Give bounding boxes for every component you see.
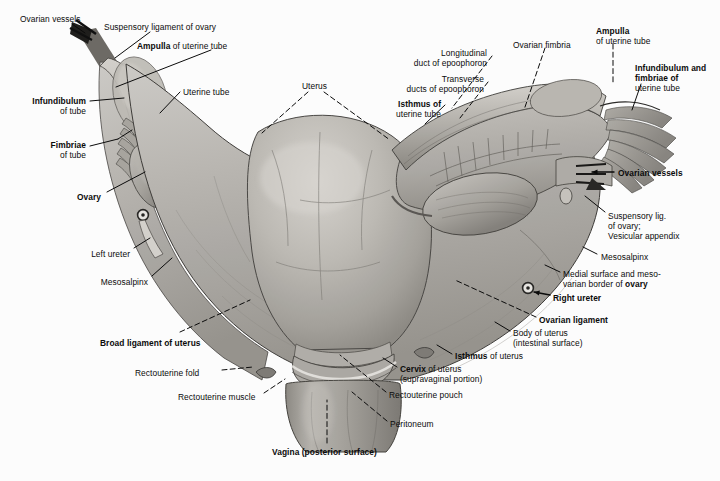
label-line: uterine tube [635, 83, 706, 93]
label-body-of-uterus: Body of uterus(intestinal surface) [513, 328, 583, 348]
label-line: Transverse [0, 74, 484, 84]
label-line: Medial surface and meso- [563, 269, 661, 279]
label-line: Right ureter [553, 293, 601, 303]
label-ovarian-vessels-right: Ovarian vessels [618, 168, 683, 178]
label-infundibulum-and-fimbriae-of-uterine-tube: Infundibulum andfimbriae ofuterine tube [635, 63, 706, 94]
label-line: Body of uterus [513, 328, 583, 338]
label-line: Longitudinal [0, 48, 487, 58]
label-ampulla-of-uterine-tube-right: Ampullaof uterine tube [596, 26, 650, 46]
label-line: Ovarian vessels [618, 168, 683, 178]
label-line: Mesosalpinx [601, 252, 648, 262]
label-left-ureter: Left ureter [0, 249, 130, 259]
label-line: Ovary [0, 192, 101, 202]
label-line: of ovary; [608, 221, 679, 231]
label-line: varian border of ovary [563, 279, 661, 289]
label-medial-surface-mesovarian-border-of-ovary: Medial surface and meso-varian border of… [563, 269, 661, 289]
label-line: Cervix of uterus [400, 364, 482, 374]
label-line: Mesosalpinx [0, 277, 148, 287]
label-line: Rectouterine muscle [178, 392, 255, 402]
label-mesosalpinx-left: Mesosalpinx [0, 277, 148, 287]
label-line: (supravaginal portion) [400, 374, 482, 384]
label-ovary-left: Ovary [0, 192, 101, 202]
label-line: Suspensory ligament of ovary [104, 22, 216, 32]
label-line: fimbriae of [635, 73, 706, 83]
label-line: Suspensory lig. [608, 211, 679, 221]
label-line: Infundibulum and [635, 63, 706, 73]
label-line: Fimbriae [0, 140, 86, 150]
label-line: Broad ligament of uterus [100, 338, 201, 348]
label-ovarian-ligament: Ovarian ligament [539, 315, 608, 325]
label-line: ducts of epoophoron [0, 84, 484, 94]
label-ovarian-vessels-left: Ovarian vessels [20, 14, 80, 24]
label-line: Left ureter [0, 249, 130, 259]
label-line: Isthmus of uterus [455, 351, 523, 361]
label-peritoneum: Peritoneum [390, 419, 433, 429]
label-line: Ovarian vessels [20, 14, 80, 24]
label-line: Vesicular appendix [608, 231, 679, 241]
label-line: of tube [0, 150, 86, 160]
label-fimbriae-of-tube: Fimbriaeof tube [0, 140, 86, 160]
label-suspensory-lig-vesicular-appendix: Suspensory lig.of ovary;Vesicular append… [608, 211, 679, 242]
label-line: Vagina (posterior surface) [272, 447, 377, 457]
label-vagina-posterior-surface: Vagina (posterior surface) [272, 447, 377, 457]
label-line: Rectouterine pouch [389, 390, 463, 400]
label-line: (intestinal surface) [513, 338, 583, 348]
label-line: uterine tube [0, 109, 441, 119]
label-rectouterine-pouch: Rectouterine pouch [389, 390, 463, 400]
label-ovarian-fimbria: Ovarian fimbria [513, 40, 571, 50]
label-line: Peritoneum [390, 419, 433, 429]
label-longitudinal-duct-of-epoophoron: Longitudinalduct of epoophoron [0, 48, 487, 68]
label-line: Ampulla [596, 26, 650, 36]
label-mesosalpinx-right: Mesosalpinx [601, 252, 648, 262]
label-line: Rectouterine fold [135, 368, 199, 378]
label-cervix-of-uterus: Cervix of uterus(supravaginal portion) [400, 364, 482, 384]
label-transverse-ducts-of-epoophoron: Transverseducts of epoophoron [0, 74, 484, 94]
label-broad-ligament-of-uterus: Broad ligament of uterus [100, 338, 201, 348]
label-line: duct of epoophoron [0, 58, 487, 68]
label-line: Ovarian fimbria [513, 40, 571, 50]
label-line: Isthmus of [0, 99, 441, 109]
label-rectouterine-fold: Rectouterine fold [135, 368, 199, 378]
label-suspensory-ligament-of-ovary: Suspensory ligament of ovary [104, 22, 216, 32]
label-rectouterine-muscle: Rectouterine muscle [178, 392, 255, 402]
label-right-ureter: Right ureter [553, 293, 601, 303]
label-line: Ovarian ligament [539, 315, 608, 325]
anatomy-plate: Ovarian vesselsSuspensory ligament of ov… [0, 0, 720, 481]
label-isthmus-of-uterus: Isthmus of uterus [455, 351, 523, 361]
label-line: of uterine tube [596, 36, 650, 46]
label-isthmus-of-uterine-tube: Isthmus ofuterine tube [0, 99, 441, 119]
